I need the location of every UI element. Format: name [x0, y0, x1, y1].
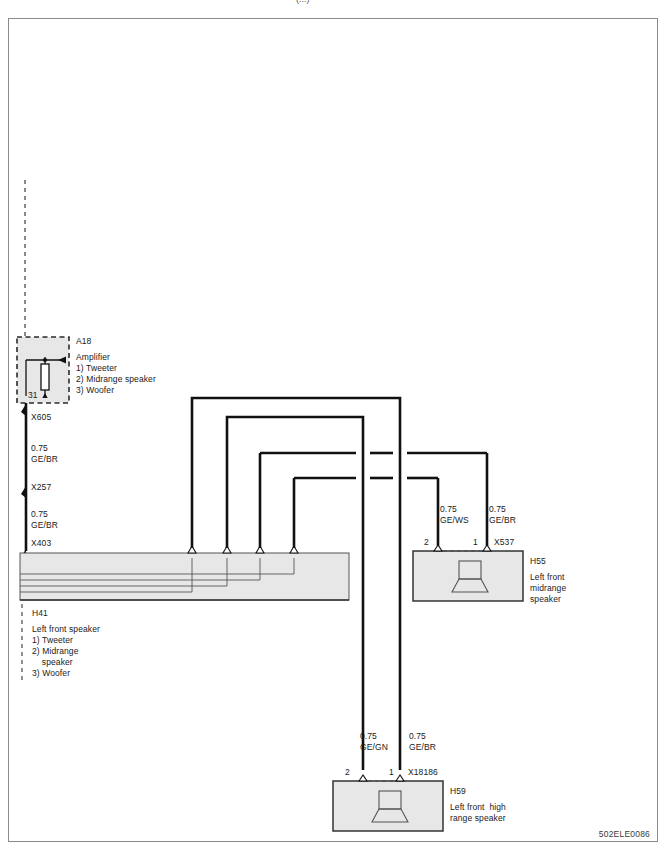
- h41-legend-3: speaker: [32, 657, 73, 668]
- wire-color-h59-pin1: GE/BR: [409, 742, 436, 753]
- amplifier-ground-pin-label: 31: [28, 390, 38, 401]
- wire-size-h55-pin1: 0.75: [489, 504, 506, 515]
- h59-ref-label: H59: [450, 786, 466, 797]
- wire-color-amp-x605: GE/BR: [31, 454, 58, 465]
- h55-ref-label: H55: [530, 556, 546, 567]
- h59-pin-2-number: 2: [345, 767, 350, 777]
- wire-color-h55-pin1: GE/BR: [489, 515, 516, 526]
- h55-connector-label: X537: [494, 537, 514, 548]
- h59-high-range-speaker-block: [333, 775, 443, 831]
- connector-x257-label: X257: [31, 482, 51, 493]
- amplifier-legend-3: 3) Woofer: [76, 385, 114, 396]
- wire-size-h59-pin1: 0.75: [409, 731, 426, 742]
- amplifier-legend-2: 2) Midrange speaker: [76, 374, 156, 385]
- h59-pin-1-number: 1: [389, 767, 394, 777]
- h41-ref-label: H41: [32, 608, 48, 619]
- h55-pin-1-number: 1: [473, 537, 478, 547]
- h41-legend-2: 2) Midrange: [32, 646, 78, 657]
- connector-barb-x257: [21, 486, 26, 498]
- h55-name-line-2: midrange: [530, 583, 566, 594]
- wiring-diagram-page: (...): [0, 0, 668, 857]
- wire-size-x257-x403: 0.75: [31, 509, 48, 520]
- h55-midrange-speaker-block: [413, 545, 523, 601]
- connector-barb-x605: [21, 404, 26, 416]
- amplifier-name-label: Amplifier: [76, 352, 110, 363]
- diagram-graphics: [0, 0, 668, 857]
- document-id-code: 502ELE0086: [599, 829, 650, 839]
- wire-route-h41-pin4-to-h55: [294, 478, 438, 548]
- connector-x403-label: X403: [31, 538, 51, 549]
- connector-x605-label: X605: [31, 412, 51, 423]
- amplifier-legend-1: 1) Tweeter: [76, 363, 117, 374]
- h55-name-line-3: speaker: [530, 594, 561, 605]
- h41-name-label: Left front speaker: [32, 624, 100, 635]
- wire-color-h59-pin2: GE/GN: [360, 742, 388, 753]
- h59-name-line-1: Left front high: [450, 802, 506, 813]
- h59-name-line-2: range speaker: [450, 813, 506, 824]
- h41-legend-4: 3) Woofer: [32, 668, 70, 679]
- h59-connector-label: X18186: [408, 767, 438, 778]
- amplifier-ref-label: A18: [76, 336, 91, 347]
- wire-size-amp-x605: 0.75: [31, 443, 48, 454]
- wire-size-h55-pin2: 0.75: [440, 504, 457, 515]
- wire-color-h55-pin2: GE/WS: [440, 515, 469, 526]
- h41-pin-barbs: [188, 546, 298, 553]
- wire-color-x257-x403: GE/BR: [31, 520, 58, 531]
- h55-name-line-1: Left front: [530, 572, 565, 583]
- wire-size-h59-pin2: 0.75: [360, 731, 377, 742]
- h55-pin-2-number: 2: [424, 537, 429, 547]
- h41-legend-1: 1) Tweeter: [32, 635, 73, 646]
